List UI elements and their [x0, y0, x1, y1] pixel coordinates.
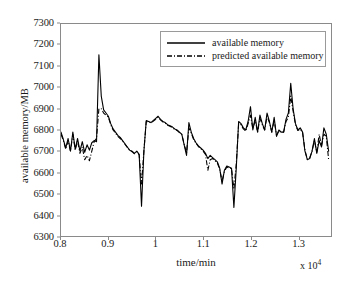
y-axis-tick-label: 6400	[33, 210, 54, 221]
y-axis-tick-label: 6700	[33, 146, 54, 157]
x-axis-tick-label: 1.1	[197, 239, 210, 250]
legend-label-predicted-available-memory: predicted available memory	[212, 51, 324, 61]
x-axis-tick-label: 1.2	[244, 239, 257, 250]
x-axis-tick-labels: 0.80.911.11.21.3	[0, 239, 350, 255]
legend-label-available-memory: available memory	[212, 38, 284, 48]
memory-chart-figure: 6300640065006600670068006900700071007200…	[0, 0, 350, 288]
legend-entry-available-memory: available memory	[165, 36, 320, 49]
y-axis-tick-label: 6800	[33, 125, 54, 136]
y-axis-tick-label: 6600	[33, 168, 54, 179]
y-axis-tick-label: 6500	[33, 189, 54, 200]
x-axis-tick-label: 0.8	[54, 239, 67, 250]
y-axis-tick-label: 7000	[33, 82, 54, 93]
x-axis-tick-mark	[108, 237, 109, 240]
x-axis-title: time/min	[60, 256, 332, 268]
x-axis-tick-label: 0.9	[101, 239, 114, 250]
y-axis-tick-label: 6900	[33, 103, 54, 114]
x-axis-exponent-power: 4	[318, 258, 322, 267]
x-axis-tick-mark	[299, 237, 300, 240]
x-axis-exponent-annotation: x 104	[300, 258, 321, 271]
chart-legend: available memory predicted available mem…	[160, 31, 326, 67]
legend-line-sample-solid	[165, 38, 207, 48]
y-axis-tick-label: 7300	[33, 18, 54, 29]
series-available-memory	[61, 55, 329, 208]
x-axis-tick-mark	[251, 237, 252, 240]
x-axis-tick-mark	[155, 237, 156, 240]
legend-entry-predicted-available-memory: predicted available memory	[165, 49, 320, 62]
x-axis-tick-mark	[203, 237, 204, 240]
legend-line-sample-dash-dot	[165, 51, 207, 61]
x-axis-tick-label: 1.3	[292, 239, 305, 250]
y-axis-title: available memory/MB	[19, 46, 30, 226]
y-axis-tick-label: 7100	[33, 61, 54, 72]
y-axis-tick-label: 7200	[33, 39, 54, 50]
x-axis-tick-mark	[60, 237, 61, 240]
x-axis-tick-label: 1	[153, 239, 158, 250]
x-axis-exponent-base: x 10	[300, 260, 318, 271]
